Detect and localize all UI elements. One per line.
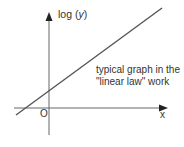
y-axis-arrow-icon [46, 12, 53, 21]
y-axis-label: log (y) [58, 8, 87, 20]
linear-graph-line [16, 8, 162, 115]
graph-annotation: typical graph in the "linear law" work [96, 64, 180, 88]
x-axis-label: x [160, 109, 165, 121]
annotation-line-2: "linear law" work [96, 76, 180, 88]
annotation-line-1: typical graph in the [96, 64, 180, 76]
origin-label: O [40, 108, 48, 120]
